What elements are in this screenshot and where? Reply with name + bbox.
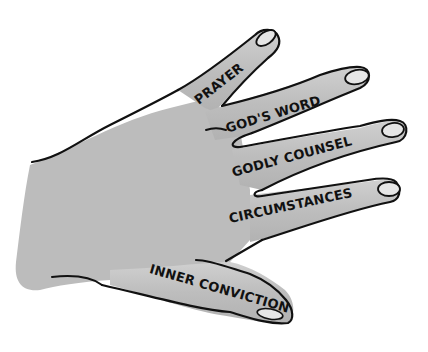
hand-drawing bbox=[0, 0, 428, 352]
hand-illustration: PRAYER GOD'S WORD GODLY COUNSEL CIRCUMST… bbox=[0, 0, 428, 352]
